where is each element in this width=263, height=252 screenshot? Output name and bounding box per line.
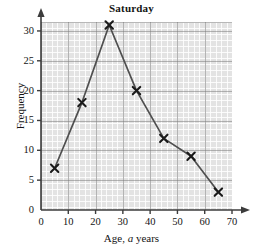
x-axis-arrow: [241, 206, 250, 213]
y-tick-label: 5: [14, 175, 34, 185]
x-tick-label: 20: [85, 216, 107, 227]
major-gridlines: [41, 22, 232, 210]
x-axis-variable: a: [128, 232, 134, 244]
x-tick-labels: 010203040506070: [0, 216, 263, 230]
x-tick-label: 10: [57, 216, 79, 227]
plot-area: [41, 22, 232, 210]
x-tick-label: 40: [139, 216, 161, 227]
x-axis-title: Age, a years: [0, 232, 263, 244]
y-axis-title: Frequency: [14, 51, 26, 161]
y-tick-label: 30: [14, 26, 34, 36]
x-tick-label: 0: [30, 216, 52, 227]
x-tick-label: 70: [221, 216, 243, 227]
chart-figure: Saturday 051015202530 010203040506070 Ag…: [0, 0, 263, 252]
x-tick-label: 60: [194, 216, 216, 227]
x-tick-label: 30: [112, 216, 134, 227]
chart-title: Saturday: [0, 2, 263, 14]
x-tick-label: 50: [166, 216, 188, 227]
y-tick-label: 0: [14, 205, 34, 215]
